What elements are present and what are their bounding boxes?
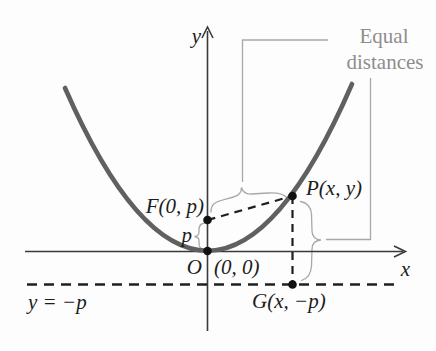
point-p-label: P(x, y)	[305, 176, 362, 200]
point-focus-dot	[203, 216, 212, 225]
origin-coords-label: (0, 0)	[214, 255, 260, 279]
brace-p-distance	[195, 223, 206, 250]
equal-distances-label-line2: distances	[347, 50, 424, 74]
x-axis-label: x	[400, 257, 411, 281]
point-p-dot	[288, 192, 297, 201]
point-g-label: G(x, −p)	[252, 289, 326, 313]
point-g-dot	[288, 280, 297, 289]
parabola-diagram: y x F(0, p) p O (0, 0) P(x, y) G(x, −p) …	[0, 0, 436, 351]
parabola-curve	[65, 84, 352, 251]
callout-line-pg	[326, 78, 371, 240]
brace-p-to-directrix	[301, 202, 322, 281]
y-axis-label: y	[190, 24, 202, 48]
diagram-svg: y x F(0, p) p O (0, 0) P(x, y) G(x, −p) …	[0, 0, 436, 351]
directrix-label: y = −p	[26, 290, 87, 314]
point-origin-dot	[203, 247, 212, 256]
equal-distances-label-line1: Equal	[360, 24, 409, 48]
p-distance-label: p	[180, 223, 193, 247]
origin-label: O	[187, 255, 202, 279]
focus-label: F(0, p)	[145, 194, 204, 218]
